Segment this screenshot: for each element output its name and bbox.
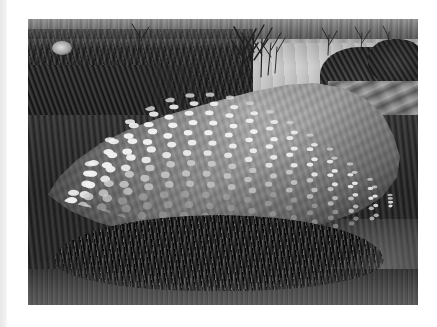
photograph bbox=[28, 19, 418, 305]
photo-canvas bbox=[28, 19, 418, 305]
page-root bbox=[0, 0, 437, 327]
left-gutter-strip bbox=[0, 0, 7, 327]
